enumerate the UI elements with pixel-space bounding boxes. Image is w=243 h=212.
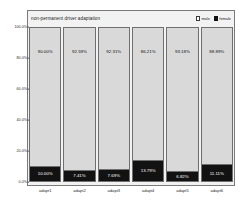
bar-segment-male[interactable]: 90.00% [30,28,60,166]
legend-swatch-female-icon [214,16,218,21]
bar-segment-male[interactable]: 86.21% [133,28,163,160]
bar-column-adapt6[interactable]: 88.89%11.11% [201,27,233,182]
legend-swatch-male-icon [196,16,200,21]
chart-header: non-permanent driver adaptation male fem… [28,11,234,25]
bar-segment-female[interactable]: 10.00% [30,166,60,181]
bar-column-adapt4[interactable]: 86.21%13.79% [132,27,164,182]
page-title: non-permanent driver adaptation [31,16,100,21]
y-axis-tick-label: 0.0% [19,180,27,184]
x-axis-label-adapt3: adapt3 [98,188,130,202]
y-axis-tick-label: 80.0% [17,56,27,60]
x-axis-label-adapt6: adapt6 [201,188,233,202]
y-axis-tick-label: 60.0% [17,87,27,91]
legend-item-female[interactable]: female [214,16,231,21]
bar-segment-female[interactable]: 13.79% [133,160,163,181]
bar-segment-male[interactable]: 92.31% [99,28,129,169]
bar-segment-male[interactable]: 88.89% [202,28,232,164]
bar-label-male: 92.31% [106,49,121,54]
bar-label-female: 7.41% [73,173,85,178]
x-axis-label-adapt5: adapt5 [166,188,198,202]
bar-label-male: 93.18% [175,49,190,54]
bar-label-male: 88.89% [209,49,224,54]
bar-label-female: 6.82% [176,174,188,179]
plot-area: 90.00%10.00%92.59%7.41%92.31%7.69%86.21%… [29,27,233,182]
bar-label-male: 92.59% [72,49,87,54]
bar-segment-female[interactable]: 7.41% [64,170,94,181]
y-axis-tick-label: 20.0% [17,149,27,153]
x-axis-label-adapt2: adapt2 [63,188,95,202]
bar-column-adapt5[interactable]: 93.18%6.82% [166,27,198,182]
legend-label-female: female [219,16,231,21]
bar-label-female: 13.79% [141,168,156,173]
bar-column-adapt3[interactable]: 92.31%7.69% [98,27,130,182]
x-axis: adapt1adapt2adapt3adapt4adapt5adapt6 [29,188,233,202]
bar-label-female: 10.00% [38,171,53,176]
bar-label-male: 86.21% [141,49,156,54]
legend: male female [196,16,231,21]
bar-segment-female[interactable]: 11.11% [202,164,232,181]
bar-column-adapt1[interactable]: 90.00%10.00% [29,27,61,182]
x-axis-label-adapt1: adapt1 [29,188,61,202]
bars-row: 90.00%10.00%92.59%7.41%92.31%7.69%86.21%… [29,27,233,182]
bar-segment-female[interactable]: 6.82% [167,171,197,181]
bar-column-adapt2[interactable]: 92.59%7.41% [63,27,95,182]
bar-segment-male[interactable]: 92.59% [64,28,94,170]
bar-label-female: 11.11% [210,171,224,176]
y-axis: 100.0%80.0%60.0%40.0%20.0%0.0% [0,22,29,187]
bar-label-female: 7.69% [108,173,120,178]
legend-label-male: male [201,16,209,21]
bar-segment-male[interactable]: 93.18% [167,28,197,171]
y-axis-tick-label: 40.0% [17,118,27,122]
legend-item-male[interactable]: male [196,16,210,21]
bar-label-male: 90.00% [38,49,53,54]
bar-segment-female[interactable]: 7.69% [99,169,129,181]
y-axis-tick-label: 100.0% [14,25,27,29]
stacked-bar-chart: non-permanent driver adaptation male fem… [0,0,243,212]
x-axis-label-adapt4: adapt4 [132,188,164,202]
